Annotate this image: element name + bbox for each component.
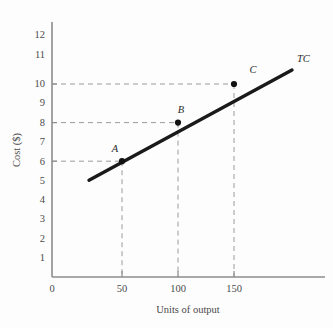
data-point-b [175,120,181,126]
data-point-a [119,158,125,164]
curve-label-tc: TC [297,53,311,64]
x-tick-label-150: 150 [226,283,242,294]
point-label-a: A [111,143,119,154]
x-tick-labels: 0 50 100 150 [49,283,242,294]
cost-curve-figure: 12 11 10 9 8 7 6 5 4 3 2 1 0 50 100 150 … [0,0,333,328]
y-tick-label-2: 2 [40,233,45,244]
x-tick-label-50: 50 [117,283,128,294]
total-cost-curve [89,70,292,180]
data-point-c [231,81,237,87]
axes [52,22,325,277]
y-tick-label-6: 6 [40,156,45,167]
point-labels: A B C [111,64,258,154]
y-tick-label-1: 1 [40,252,45,263]
y-tick-label-4: 4 [40,194,46,205]
y-axis-title: Cost ($) [11,132,23,167]
y-tick-label-5: 5 [40,175,45,186]
y-tick-label-10: 10 [35,78,46,89]
y-tick-label-12: 12 [35,29,46,40]
x-tick-label-100: 100 [170,283,186,294]
point-label-b: B [178,104,185,115]
chart-canvas: 12 11 10 9 8 7 6 5 4 3 2 1 0 50 100 150 … [0,0,333,328]
y-tick-label-11: 11 [35,49,45,60]
y-tick-label-8: 8 [40,117,45,128]
x-tick-label-0: 0 [49,283,54,294]
y-tick-labels: 12 11 10 9 8 7 6 5 4 3 2 1 [35,29,46,263]
x-axis-ticks [122,271,234,277]
y-tick-label-3: 3 [40,213,45,224]
x-axis-title: Units of output [156,304,220,315]
guide-lines [52,84,234,277]
y-tick-label-7: 7 [40,136,45,147]
point-label-c: C [249,64,257,75]
y-tick-label-9: 9 [40,97,45,108]
